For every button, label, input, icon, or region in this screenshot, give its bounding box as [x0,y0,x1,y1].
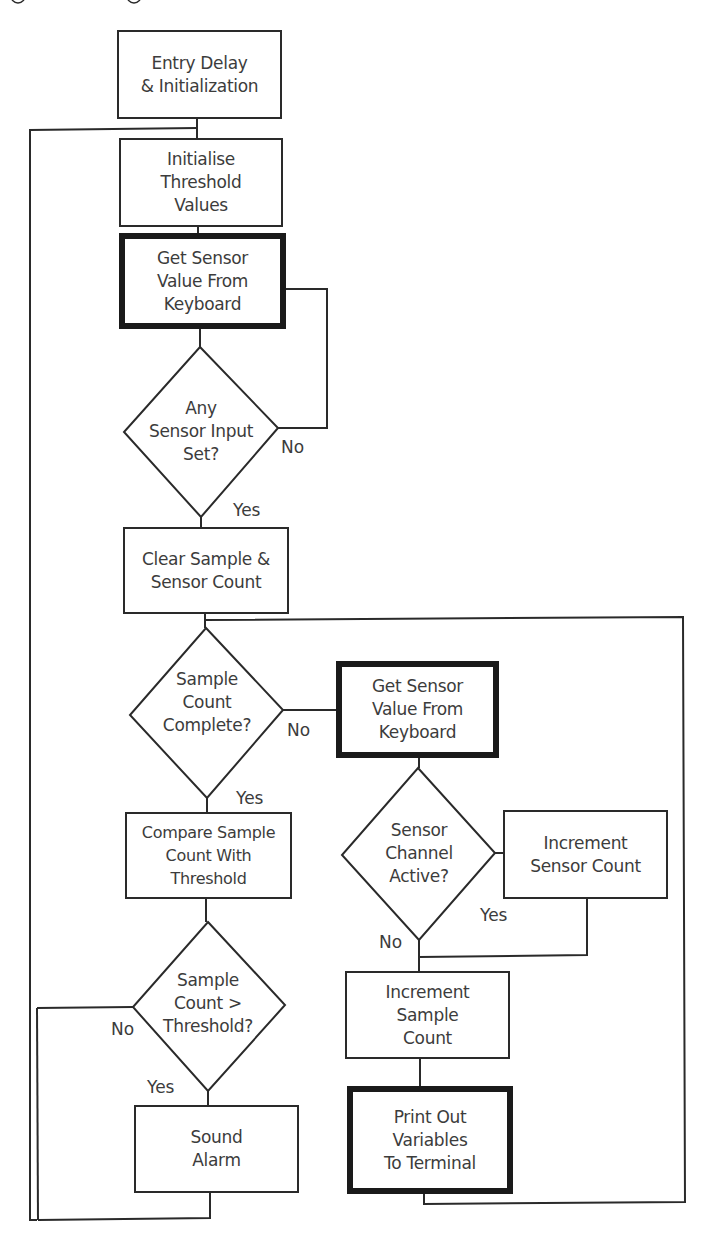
branch-label-yes: Yes [480,905,507,925]
node-label: Get Sensor Value From Keyboard [372,675,463,744]
node-label: Sound Alarm [190,1126,242,1172]
node-get-sensor-value-1: Get Sensor Value From Keyboard [119,233,286,329]
node-label: Get Sensor Value From Keyboard [157,247,248,316]
decision-over-threshold-label: Sample Count > Threshold? [163,969,253,1038]
node-label: Compare Sample Count With Threshold [142,821,275,890]
branch-label-no: No [281,437,304,457]
node-compare-threshold: Compare Sample Count With Threshold [125,812,292,899]
branch-label-no: No [379,932,402,952]
node-label: Increment Sensor Count [530,832,641,878]
node-label: Clear Sample & Sensor Count [142,548,270,594]
node-label: Entry Delay & Initialization [141,52,259,98]
node-label: Initialise Threshold Values [160,148,241,217]
node-entry-delay: Entry Delay & Initialization [117,30,282,119]
node-print-variables: Print Out Variables To Terminal [347,1086,513,1194]
decision-any-input-label: Any Sensor Input Set? [149,397,253,466]
node-clear-counts: Clear Sample & Sensor Count [123,527,289,614]
branch-label-yes: Yes [233,500,260,520]
decision-channel-active-label: Sensor Channel Active? [385,819,453,888]
node-initialise-threshold: Initialise Threshold Values [119,138,283,227]
node-get-sensor-value-2: Get Sensor Value From Keyboard [336,661,499,758]
decision-sample-complete-label: Sample Count Complete? [163,668,251,737]
node-increment-sensor-count: Increment Sensor Count [503,810,668,899]
node-label: Print Out Variables To Terminal [384,1106,476,1175]
branch-label-yes: Yes [236,788,263,808]
node-sound-alarm: Sound Alarm [134,1105,299,1193]
flowchart-connectors [0,0,714,1249]
branch-label-no: No [111,1019,134,1039]
branch-label-yes: Yes [147,1077,174,1097]
node-label: Increment Sample Count [386,981,470,1050]
node-increment-sample-count: Increment Sample Count [345,971,510,1059]
branch-label-no: No [287,720,310,740]
